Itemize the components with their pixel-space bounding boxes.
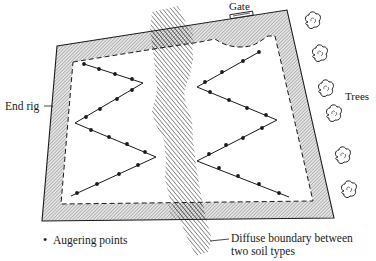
legend-augering-points: Augering points	[53, 234, 128, 247]
tree-icon	[341, 181, 356, 198]
trees-label: Trees	[345, 90, 369, 102]
field-diagram: Gate End rig Trees • Augering points Dif…	[0, 0, 376, 261]
boundary-label-line1: Diffuse boundary between	[231, 232, 353, 245]
tree-icon	[318, 80, 333, 97]
tree-icon	[335, 147, 350, 164]
tree-icon	[312, 45, 327, 62]
legend-bullet: •	[43, 233, 47, 247]
boundary-leader	[210, 239, 229, 241]
tree-icon	[326, 105, 341, 122]
tree-icon	[305, 12, 320, 29]
gate-label: Gate	[229, 0, 250, 12]
end-rig-label: End rig	[5, 100, 39, 113]
boundary-label-line2: two soil types	[231, 245, 295, 258]
